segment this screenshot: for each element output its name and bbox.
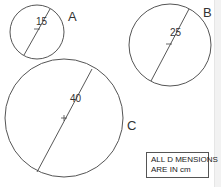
circle-a-label: A bbox=[68, 9, 77, 24]
circle-a-diameter: 15 bbox=[36, 16, 48, 27]
note-line-2: ARE IN cm bbox=[151, 165, 208, 175]
circle-b-diameter: 25 bbox=[170, 27, 182, 38]
circle-a: 15 A bbox=[10, 5, 77, 59]
circle-c-diameter: 40 bbox=[70, 93, 82, 104]
dimensions-note: ALL D MENSIONS ARE IN cm bbox=[146, 152, 209, 178]
circle-b: 25 B bbox=[129, 4, 212, 86]
note-line-1: ALL D MENSIONS bbox=[151, 155, 208, 165]
circle-c: 40 C bbox=[5, 59, 136, 177]
circle-b-label: B bbox=[203, 5, 212, 20]
circle-c-label: C bbox=[127, 118, 136, 133]
